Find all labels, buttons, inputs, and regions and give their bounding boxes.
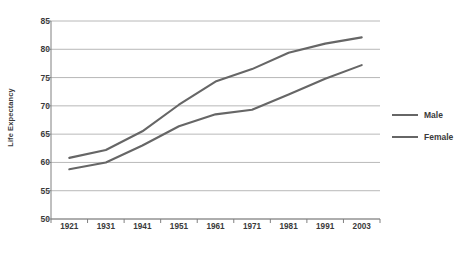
- x-tick-label: 1991: [316, 222, 334, 231]
- x-tick-label: 1961: [206, 222, 224, 231]
- x-tick-label: 1971: [243, 222, 261, 231]
- x-tick-label: 1941: [133, 222, 151, 231]
- legend-label-male: Male: [424, 110, 443, 120]
- legend-line-swatch-male: [392, 114, 418, 116]
- legend-line-swatch-female: [392, 136, 418, 138]
- x-tick-label: 1931: [97, 222, 115, 231]
- legend-item-female: Female: [392, 126, 472, 148]
- x-tick-label: 1921: [60, 222, 78, 231]
- x-tick-label: 2003: [353, 222, 371, 231]
- life-expectancy-chart: Life Expectancy 85 80 75 70 65 60 55 50 …: [0, 0, 475, 254]
- chart-legend: Male Female: [392, 104, 472, 148]
- x-tick-label: 1951: [170, 222, 188, 231]
- legend-label-female: Female: [424, 132, 453, 142]
- series-line-female: [69, 37, 361, 157]
- legend-item-male: Male: [392, 104, 472, 126]
- x-tick-label: 1981: [280, 222, 298, 231]
